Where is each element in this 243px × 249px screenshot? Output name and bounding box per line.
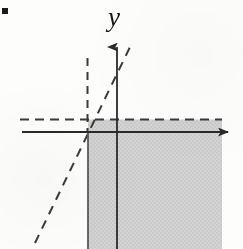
shaded-solution-region xyxy=(88,120,222,249)
y-axis-label: y xyxy=(108,4,120,31)
figure-container: y xyxy=(0,0,243,249)
coordinate-plane-svg xyxy=(0,0,243,249)
